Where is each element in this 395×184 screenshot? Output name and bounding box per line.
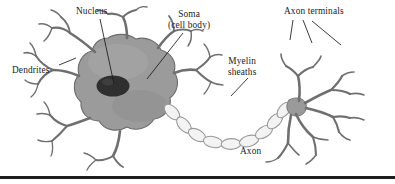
dendrite-branch — [51, 10, 61, 17]
dendrite-lower-left — [67, 118, 90, 126]
dendrite-branch — [123, 10, 136, 17]
terminal-branch — [331, 90, 350, 94]
terminal-branch — [296, 114, 313, 137]
leader-line-myelin — [231, 78, 248, 96]
terminal-branch — [331, 76, 342, 90]
dendrite-branch — [84, 153, 96, 160]
label-soma: Soma (cell body) — [168, 9, 210, 30]
terminal-branch — [342, 72, 354, 76]
terminal-branch — [333, 116, 350, 118]
leader-line-axonterm-3 — [312, 21, 341, 45]
leader-line-dendrites — [59, 58, 76, 65]
myelin-segment — [202, 135, 223, 150]
soma-highlight — [88, 44, 148, 80]
dendrite-branch — [188, 31, 191, 46]
dendrite-branch — [136, 7, 147, 10]
dendrite-bottom — [113, 131, 120, 156]
leader-line-axonterm-1 — [290, 20, 293, 40]
dendrite-branch — [108, 14, 123, 17]
dendrite-branch — [52, 28, 70, 33]
dendrite-branch — [113, 156, 123, 167]
terminal-branch — [288, 115, 291, 143]
dendrite-branch — [31, 84, 38, 97]
dendrite-upper-right — [158, 31, 174, 48]
dendrite-branch — [50, 115, 67, 126]
terminal-branch — [350, 118, 364, 120]
terminal-branch — [266, 158, 278, 162]
terminal-branch — [313, 137, 316, 155]
neuron-diagram-figure: Nucleus Soma (cell body) Dendrites Axon … — [0, 0, 395, 184]
myelin-segment — [221, 138, 241, 149]
dendrite-branch — [24, 53, 36, 56]
dendrite-branch — [25, 80, 38, 84]
label-axon-terminals: Axon terminals — [284, 6, 344, 17]
leader-line-axonterm-2 — [303, 20, 312, 43]
dendrite-branch — [204, 82, 211, 94]
dendrite-branch — [39, 24, 52, 28]
dendrite-branch — [196, 70, 211, 82]
terminal-branch — [333, 117, 339, 132]
label-nucleus: Nucleus — [76, 6, 108, 17]
nucleus-sheen — [102, 79, 114, 86]
dendrite-branch — [196, 57, 210, 70]
label-dendrites: Dendrites — [12, 65, 50, 76]
terminal-branch — [278, 143, 288, 158]
dendrite-branch — [38, 140, 52, 142]
label-myelin-line1: Myelin — [228, 56, 256, 67]
terminal-branch — [305, 90, 331, 103]
terminal-branch — [350, 93, 364, 95]
dendrite-branch — [44, 28, 52, 41]
dendrite-branch — [51, 141, 53, 156]
label-myelin-line2: sheaths — [228, 67, 256, 78]
myelin-sheath-segments — [161, 100, 293, 150]
terminal-branch — [306, 155, 316, 164]
terminal-branch — [306, 108, 333, 117]
terminal-branch — [313, 56, 321, 67]
terminal-branch — [339, 132, 350, 140]
label-myelin-sheaths: Myelin sheaths — [228, 56, 256, 77]
dendrite-right — [174, 70, 196, 73]
dendrite-branch — [204, 44, 210, 57]
terminal-branch — [298, 67, 313, 76]
dendrite-branch — [52, 126, 67, 141]
label-axon: Axon — [240, 146, 261, 157]
terminal-branch — [281, 54, 286, 66]
terminal-branch — [298, 76, 300, 101]
dendrite-branch — [37, 113, 50, 115]
label-soma-line2: (cell body) — [168, 20, 210, 31]
terminal-branch — [313, 137, 328, 140]
dendrite-branch — [211, 82, 223, 85]
dendrite-branch — [96, 156, 113, 160]
dendrite-branch — [210, 55, 222, 57]
dendrite-upper-left — [70, 33, 95, 52]
axon-group — [161, 100, 293, 150]
dendrite-left — [53, 70, 79, 76]
dendrite-branch — [87, 160, 96, 170]
terminal-branch — [286, 66, 298, 76]
label-soma-line1: Soma — [168, 9, 210, 20]
terminal-branch — [288, 143, 299, 155]
bottom-divider-rule — [0, 176, 395, 179]
